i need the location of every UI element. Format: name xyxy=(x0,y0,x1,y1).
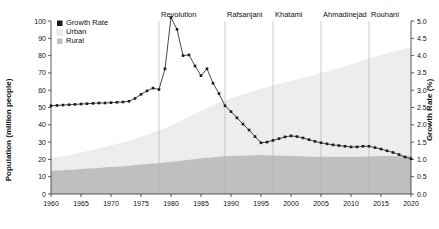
growth-rate-point xyxy=(320,141,323,144)
x-tick-label-1985: 1985 xyxy=(193,200,209,207)
period-label-revolution: Revolution xyxy=(161,10,196,19)
urban-area xyxy=(51,48,411,171)
x-tick-label-2020: 2020 xyxy=(403,200,419,207)
growth-rate-point xyxy=(134,97,137,100)
growth-rate-point xyxy=(128,100,131,103)
growth-rate-point xyxy=(164,67,167,70)
period-label-rouhani: Rouhani xyxy=(371,10,399,19)
growth-rate-point xyxy=(200,74,203,77)
legend-label-rural: Rural xyxy=(66,36,84,45)
growth-rate-point xyxy=(392,151,395,154)
growth-rate-point xyxy=(86,102,89,105)
growth-rate-point xyxy=(260,141,263,144)
x-tick-label-1990: 1990 xyxy=(223,200,239,207)
growth-rate-point xyxy=(98,102,101,105)
legend-swatch-growth-rate xyxy=(57,21,63,27)
growth-rate-point xyxy=(332,144,335,147)
growth-rate-point xyxy=(146,90,149,93)
growth-rate-point xyxy=(218,92,221,95)
y2-tick-label-5.0: 5.0 xyxy=(417,18,427,25)
y-tick-label-60: 60 xyxy=(38,87,46,94)
y-tick-label-50: 50 xyxy=(38,104,46,111)
growth-rate-point xyxy=(380,148,383,151)
period-label-rafsanjani: Rafsanjani xyxy=(227,10,263,19)
growth-rate-point xyxy=(356,146,359,149)
growth-rate-point xyxy=(92,102,95,105)
y-tick-label-100: 100 xyxy=(34,18,46,25)
period-label-ahmadinejad: Ahmadinejad xyxy=(323,10,367,19)
x-tick-label-1995: 1995 xyxy=(253,200,269,207)
legend-label-urban: Urban xyxy=(66,27,86,36)
growth-rate-point xyxy=(194,65,197,68)
growth-rate-point xyxy=(50,104,53,107)
growth-rate-point xyxy=(176,28,179,31)
growth-rate-point xyxy=(386,149,389,152)
growth-rate-point xyxy=(152,87,155,90)
x-tick-label-2015: 2015 xyxy=(373,200,389,207)
y-tick-label-20: 20 xyxy=(38,156,46,163)
growth-rate-point xyxy=(284,136,287,139)
legend-label-growth-rate: Growth Rate xyxy=(66,18,108,27)
y-tick-label-30: 30 xyxy=(38,139,46,146)
growth-rate-point xyxy=(74,103,77,106)
growth-rate-point xyxy=(158,88,161,91)
x-axis-ticks: 1960196519701975198019851990199520002005… xyxy=(43,194,419,207)
growth-rate-point xyxy=(308,138,311,141)
growth-rate-point xyxy=(398,153,401,156)
y-axis-left-title: Population (million people) xyxy=(4,78,13,181)
y-tick-label-80: 80 xyxy=(38,52,46,59)
y-tick-label-0: 0 xyxy=(42,191,46,198)
y-tick-label-40: 40 xyxy=(38,121,46,128)
growth-rate-point xyxy=(296,135,299,138)
stacked-area-group xyxy=(51,48,411,194)
chart-legend: Growth RateUrbanRural xyxy=(57,18,108,45)
growth-rate-point xyxy=(80,103,83,106)
growth-rate-point xyxy=(266,141,269,144)
population-growth-chart: 1960196519701975198019851990199520002005… xyxy=(0,0,439,229)
growth-rate-point xyxy=(206,67,209,70)
period-label-khatami: Khatami xyxy=(275,10,303,19)
growth-rate-point xyxy=(350,146,353,149)
growth-rate-point xyxy=(326,143,329,146)
y2-tick-label-0.0: 0.0 xyxy=(417,191,427,198)
y2-tick-label-1.0: 1.0 xyxy=(417,156,427,163)
growth-rate-point xyxy=(188,54,191,57)
growth-rate-point xyxy=(272,139,275,142)
y2-tick-label-3.5: 3.5 xyxy=(417,69,427,76)
growth-rate-point xyxy=(278,137,281,140)
growth-rate-point xyxy=(230,110,233,113)
legend-swatch-rural xyxy=(57,39,63,45)
legend-swatch-urban xyxy=(57,30,63,36)
growth-rate-point xyxy=(404,156,407,159)
x-tick-label-1975: 1975 xyxy=(133,200,149,207)
growth-rate-point xyxy=(254,135,257,138)
y-tick-label-90: 90 xyxy=(38,35,46,42)
growth-rate-point xyxy=(68,103,71,106)
period-labels-group: RevolutionRafsanjaniKhatamiAhmadinejadRo… xyxy=(161,10,399,19)
growth-rate-point xyxy=(290,135,293,138)
growth-rate-point xyxy=(122,101,125,104)
y-tick-label-10: 10 xyxy=(38,173,46,180)
growth-rate-point xyxy=(344,145,347,148)
x-tick-label-1960: 1960 xyxy=(43,200,59,207)
growth-rate-point xyxy=(182,54,185,57)
x-tick-label-1970: 1970 xyxy=(103,200,119,207)
x-tick-label-2000: 2000 xyxy=(283,200,299,207)
x-tick-label-2010: 2010 xyxy=(343,200,359,207)
growth-rate-point xyxy=(248,129,251,132)
growth-rate-point xyxy=(242,123,245,126)
growth-rate-point xyxy=(110,101,113,104)
x-tick-label-1965: 1965 xyxy=(73,200,89,207)
growth-rate-point xyxy=(116,101,119,104)
y-tick-label-70: 70 xyxy=(38,69,46,76)
growth-rate-point xyxy=(374,146,377,149)
growth-rate-point xyxy=(56,104,59,107)
growth-rate-point xyxy=(410,157,413,160)
chart-canvas: 1960196519701975198019851990199520002005… xyxy=(0,0,439,229)
growth-rate-point xyxy=(368,145,371,148)
growth-rate-point xyxy=(338,144,341,147)
growth-rate-point xyxy=(62,104,65,107)
y2-tick-label-0.5: 0.5 xyxy=(417,173,427,180)
x-tick-label-2005: 2005 xyxy=(313,200,329,207)
y-axis-right-title: Growth Rate (%) xyxy=(425,79,434,142)
